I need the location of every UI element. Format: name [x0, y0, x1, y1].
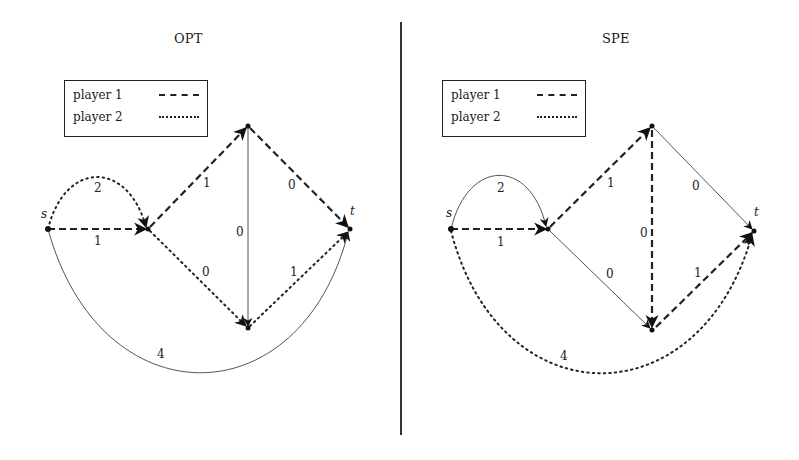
weight-bottom-t: 1 — [694, 266, 702, 280]
edge-top-t-dashed — [250, 128, 348, 227]
node-s — [45, 226, 51, 232]
node-s — [448, 226, 454, 232]
weight-s-v1-arc: 2 — [497, 181, 505, 195]
edge-top-t-solid — [653, 127, 752, 229]
panel-opt: OPT player 1 player 2 — [0, 0, 400, 460]
edge-v1-top-dashed — [150, 128, 246, 227]
node-top — [650, 124, 655, 129]
weight-top-bottom: 0 — [236, 225, 244, 239]
weight-top-t: 0 — [288, 178, 296, 192]
edge-v1-bottom-solid — [550, 231, 650, 328]
node-t — [752, 229, 757, 234]
weight-top-bottom: 0 — [640, 226, 648, 240]
graph-opt: s t 1 2 1 0 0 0 1 4 — [0, 0, 400, 460]
weight-bottom-t: 1 — [290, 265, 298, 279]
graph-spe: s t 1 2 1 0 0 0 1 4 — [400, 0, 799, 460]
weight-s-v1-arc: 2 — [94, 181, 102, 195]
edge-bottom-t-dotted — [250, 232, 348, 326]
node-label-s: s — [41, 207, 47, 221]
weight-v1-bottom: 0 — [202, 265, 210, 279]
weight-s-v1: 1 — [497, 235, 505, 249]
edge-s-t-arc-solid — [48, 229, 348, 373]
node-v1 — [546, 227, 551, 232]
weight-s-t-arc: 4 — [560, 349, 568, 363]
edge-bottom-t-dashed — [656, 233, 752, 327]
panel-spe: SPE player 1 player 2 — [400, 0, 799, 460]
weight-s-t-arc: 4 — [157, 347, 165, 361]
node-bottom — [246, 326, 251, 331]
node-label-s: s — [446, 206, 452, 220]
node-top — [246, 124, 251, 129]
edge-v1-bottom-dotted — [150, 231, 246, 326]
edge-s-t-arc-dotted — [451, 231, 752, 373]
edge-v1-top-dashed — [550, 128, 650, 227]
node-v1 — [146, 227, 151, 232]
node-bottom — [650, 328, 655, 333]
node-label-t: t — [350, 204, 355, 218]
weight-v1-top: 1 — [203, 176, 211, 190]
node-label-t: t — [754, 205, 759, 219]
weight-v1-top: 1 — [607, 176, 615, 190]
node-t — [348, 227, 353, 232]
weight-v1-bottom: 0 — [606, 267, 614, 281]
weight-top-t: 0 — [692, 179, 700, 193]
weight-s-v1: 1 — [94, 234, 102, 248]
